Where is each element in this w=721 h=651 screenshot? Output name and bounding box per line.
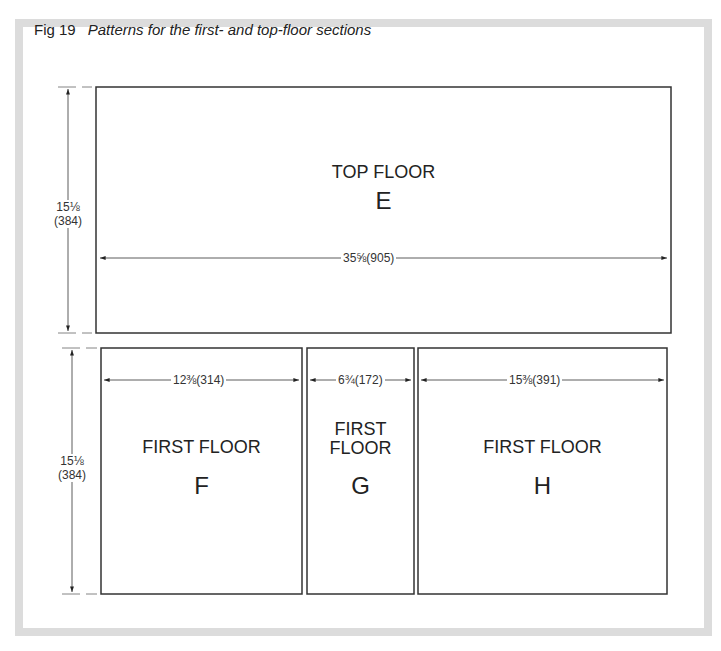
- panel-g-name-line1: FIRST: [307, 419, 414, 440]
- panel-f-letter: F: [101, 473, 302, 499]
- panel-h-letter: H: [418, 473, 667, 499]
- upper-height-in: 15⅛: [48, 200, 88, 214]
- pattern-diagram: [0, 0, 721, 651]
- panel-h-name: FIRST FLOOR: [418, 437, 667, 458]
- panel-f-name: FIRST FLOOR: [101, 437, 302, 458]
- lower-height-mm: (384): [52, 468, 92, 482]
- upper-height-dim: 15⅛ (384): [48, 200, 88, 228]
- panel-e-letter: E: [296, 188, 471, 214]
- panel-g-letter: G: [307, 473, 414, 499]
- panel-f-width-dim: 12⅜(314): [171, 373, 226, 387]
- lower-height-in: 15⅛: [52, 454, 92, 468]
- panel-e-name: TOP FLOOR: [296, 162, 471, 183]
- upper-height-mm: (384): [48, 214, 88, 228]
- panel-e-width-dim: 35⅝(905): [341, 251, 396, 265]
- panel-g-name-line2: FLOOR: [307, 438, 414, 459]
- panel-g-width-dim: 6¾(172): [336, 373, 385, 387]
- panel-h-width-dim: 15⅜(391): [507, 373, 562, 387]
- lower-height-dim: 15⅛ (384): [52, 454, 92, 482]
